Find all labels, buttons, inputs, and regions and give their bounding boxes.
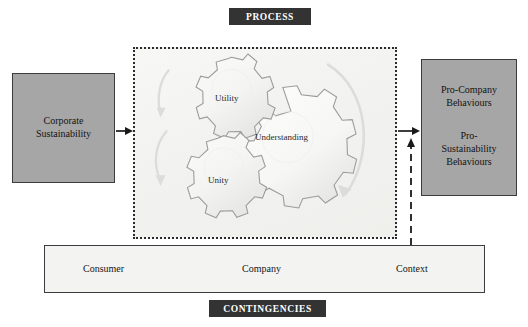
pro-sustainability-line-2: Sustainability <box>442 143 497 156</box>
contingency-item-consumer: Consumer <box>83 263 124 274</box>
corporate-sustainability-line-1: Corporate <box>44 115 84 128</box>
faint-arrowhead-left-top <box>157 108 166 118</box>
contingency-item-context: Context <box>396 263 428 274</box>
pro-company-behaviours-group: Pro-Company Behaviours <box>441 84 497 110</box>
contingencies-banner: CONTINGENCIES <box>209 300 326 317</box>
pro-sustainability-line-3: Behaviours <box>442 156 497 169</box>
conceptual-framework-diagram: PROCESS Corporate Sustainability <box>0 0 528 327</box>
process-area: Utility Understanding Unity <box>133 47 397 239</box>
corporate-sustainability-line-2: Sustainability <box>36 128 91 141</box>
pro-sustainability-behaviours-group: Pro- Sustainability Behaviours <box>442 130 497 168</box>
gear-label-utility: Utility <box>215 93 239 103</box>
corporate-sustainability-box: Corporate Sustainability <box>12 73 115 183</box>
faint-arrowhead-left-bottom <box>156 175 166 186</box>
arrow-contingencies-moderator <box>407 138 415 245</box>
arrow-input-to-process <box>116 127 133 135</box>
pro-sustainability-line-1: Pro- <box>442 130 497 143</box>
contingencies-bar: Consumer Company Context <box>44 245 485 293</box>
behaviours-outcome-box: Pro-Company Behaviours Pro- Sustainabili… <box>421 59 517 196</box>
contingency-item-company: Company <box>242 263 281 274</box>
faint-curved-arrows-left <box>156 71 169 181</box>
gear-label-unity: Unity <box>208 175 229 185</box>
process-banner: PROCESS <box>229 8 311 25</box>
pro-company-line-2: Behaviours <box>441 97 497 110</box>
gear-label-understanding: Understanding <box>255 132 308 142</box>
arrow-process-to-outcome <box>398 127 420 135</box>
gears-illustration <box>135 49 395 237</box>
pro-company-line-1: Pro-Company <box>441 84 497 97</box>
